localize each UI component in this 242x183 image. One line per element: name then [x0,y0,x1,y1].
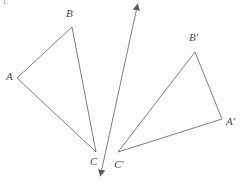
vertex-label-a: A [6,71,13,82]
vertex-label-c: C [90,156,97,167]
figure-canvas [0,0,242,183]
vertex-label-b-prime: B′ [189,32,198,43]
triangle-abc [17,27,96,152]
vertex-label-a-prime: A′ [226,116,235,127]
triangle-a-prime-b-prime-c-prime [118,52,222,152]
vertex-label-c-prime: C′ [114,159,124,170]
geometry-figure: 1. A B C A′ B′ C′ [0,0,242,183]
vertex-label-b: B [66,8,73,19]
